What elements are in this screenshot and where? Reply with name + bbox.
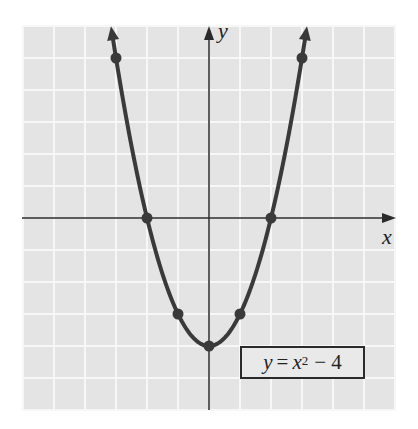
x-axis-label: x <box>381 224 392 249</box>
legend-y-var: y <box>263 350 272 375</box>
legend-equals: = <box>277 350 289 375</box>
data-point <box>235 309 246 320</box>
data-point <box>142 213 153 224</box>
y-axis-label: y <box>216 18 228 43</box>
equation-legend: y = x 2 − 4 <box>240 346 365 379</box>
data-point <box>111 53 122 64</box>
data-point <box>204 341 215 352</box>
data-point <box>297 53 308 64</box>
parabola-figure: x y y = x 2 − 4 <box>0 0 418 429</box>
data-point <box>266 213 277 224</box>
legend-x-var: x <box>292 350 301 375</box>
legend-constant: − 4 <box>314 350 342 375</box>
legend-exponent: 2 <box>302 353 309 369</box>
data-point <box>173 309 184 320</box>
